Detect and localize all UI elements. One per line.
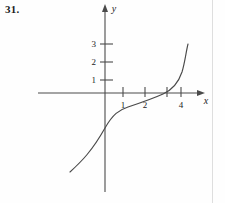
- x-tick-label-2: 2: [143, 100, 148, 110]
- y-tick-label-2: 2: [92, 57, 97, 67]
- graph-figure: 1 2 4 1 2 3 x y: [0, 0, 225, 203]
- y-tick-label-3: 3: [92, 39, 97, 49]
- figure-page: 31. 1 2 4 1 2 3 x y: [0, 0, 225, 203]
- y-axis-label: y: [111, 3, 117, 14]
- y-axis-arrowhead: [102, 4, 108, 12]
- x-axis-label: x: [203, 95, 209, 106]
- x-tick-label-4: 4: [179, 100, 184, 110]
- curve-path: [70, 44, 188, 172]
- y-tick-label-1: 1: [92, 75, 97, 85]
- x-tick-label-1: 1: [121, 100, 126, 110]
